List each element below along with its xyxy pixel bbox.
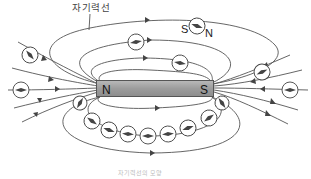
bar-magnet: N S: [96, 80, 214, 97]
compass: [70, 93, 89, 112]
compass: [198, 107, 220, 129]
compass-south-label: S: [181, 24, 188, 35]
compass-north-label: N: [205, 28, 213, 39]
compass: [127, 33, 146, 52]
figure-caption: 자기력선의 모양: [118, 170, 162, 176]
magnetic-field-diagram: N S 자기력선 S N 자기력선의 모양: [0, 0, 311, 179]
compass: [178, 118, 199, 139]
compass: [13, 82, 29, 98]
compass: [19, 44, 42, 67]
compass: [171, 54, 190, 73]
compass: [119, 125, 136, 142]
compass: [282, 82, 298, 98]
field-lines-label: 자기력선: [72, 3, 110, 13]
field-line: [50, 20, 279, 84]
compass: [159, 125, 176, 142]
field-line: [214, 55, 290, 84]
compass: [81, 110, 103, 132]
compass: [99, 120, 120, 141]
compass: [212, 93, 231, 112]
compass: [140, 128, 156, 144]
field-line: [80, 40, 231, 83]
magnet-north-pole-label: N: [102, 83, 111, 97]
magnet-south-pole-label: S: [200, 83, 208, 97]
